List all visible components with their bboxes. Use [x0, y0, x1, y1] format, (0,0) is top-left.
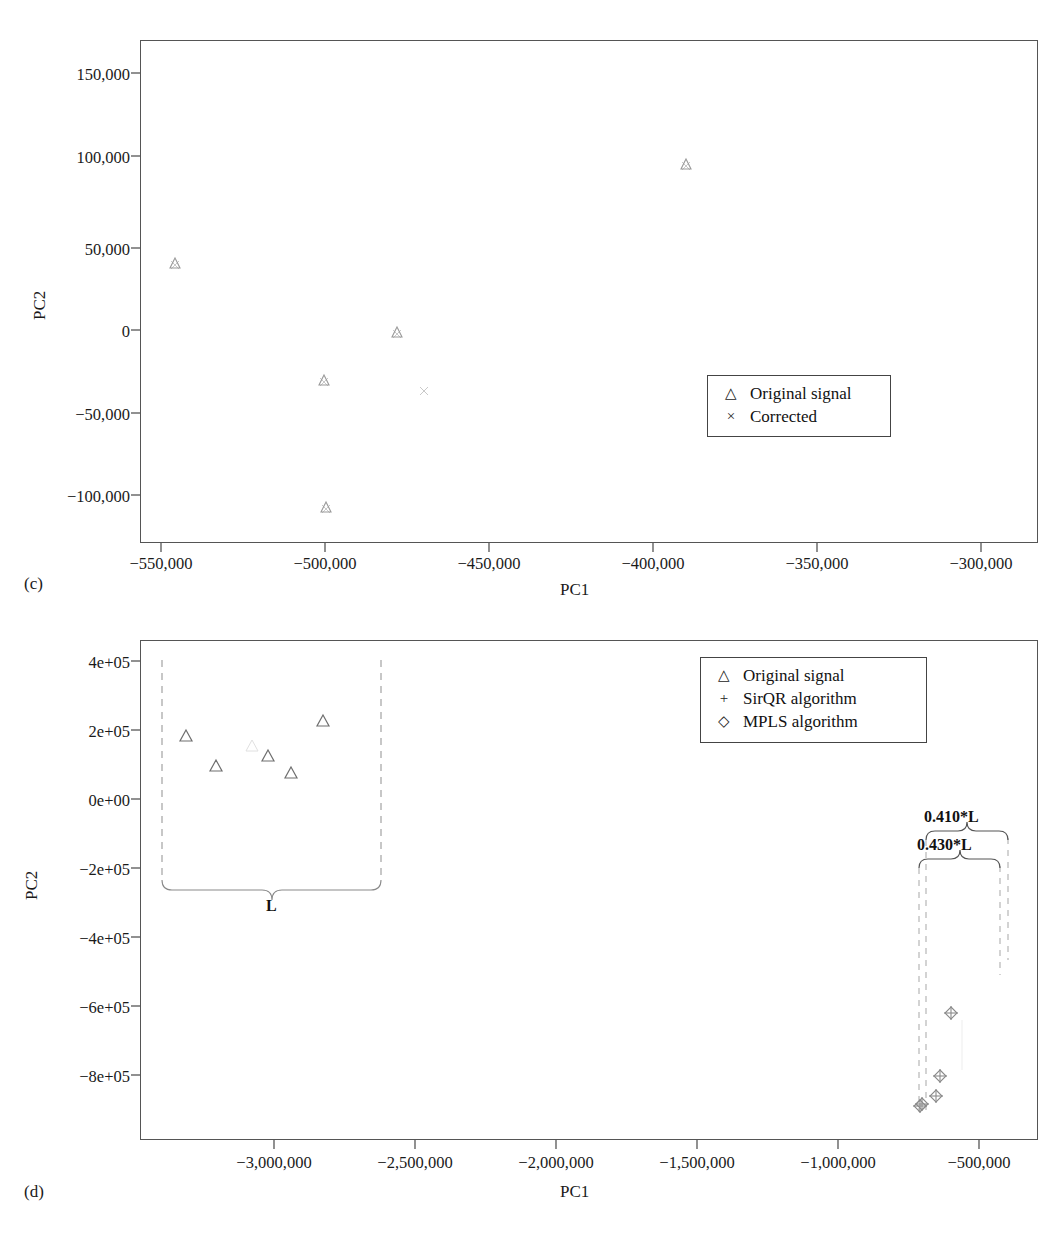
legend-label: Original signal — [739, 666, 845, 686]
series-sirqr-d — [913, 1006, 958, 1113]
brace-0430L-label: 0.430*L — [917, 836, 972, 854]
legend-row: + SirQR algorithm — [709, 687, 914, 710]
legend-label: SirQR algorithm — [739, 689, 857, 709]
triangle-icon: △ — [709, 668, 739, 683]
plot-area-d — [0, 0, 1064, 1252]
panel-label-d: (d) — [24, 1182, 44, 1202]
region-L — [162, 660, 381, 880]
x-axis-title-d: PC1 — [560, 1182, 589, 1202]
series-original-d — [180, 715, 329, 778]
series-original-d-faint — [246, 740, 258, 751]
region-0410L — [926, 838, 1008, 1110]
diamond-icon: ◇ — [709, 714, 739, 729]
brace-0410L-label: 0.410*L — [924, 808, 979, 826]
region-0430L — [919, 866, 1000, 1112]
legend-d: △ Original signal + SirQR algorithm ◇ MP… — [700, 657, 927, 743]
brace-L-label: L — [266, 897, 277, 915]
legend-row: ◇ MPLS algorithm — [709, 710, 914, 733]
legend-row: △ Original signal — [709, 664, 914, 687]
legend-label: MPLS algorithm — [739, 712, 858, 732]
plus-icon: + — [709, 691, 739, 706]
y-axis-title-d: PC2 — [22, 871, 42, 900]
